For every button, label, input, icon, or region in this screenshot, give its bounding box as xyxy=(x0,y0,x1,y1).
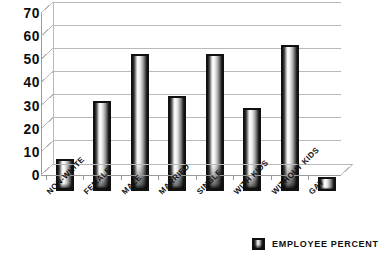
y-tick-label: 0 xyxy=(5,170,40,180)
legend-swatch-icon xyxy=(252,238,265,250)
legend-label: EMPLOYEE PERCENT xyxy=(272,239,379,249)
y-tick-label: 10 xyxy=(5,147,40,157)
y-tick-label: 60 xyxy=(5,31,40,41)
y-tick-label: 40 xyxy=(5,77,40,87)
bar xyxy=(131,54,149,191)
bar-chart: 706050403020100 NON-WHITEFEMALEMALEMARRI… xyxy=(0,0,387,266)
y-axis: 706050403020100 xyxy=(0,0,40,190)
grid-connector xyxy=(41,2,53,13)
y-tick-label: 30 xyxy=(5,101,40,111)
legend: EMPLOYEE PERCENT xyxy=(252,238,379,250)
y-tick-label: 50 xyxy=(5,54,40,64)
y-tick-label: 20 xyxy=(5,124,40,134)
y-tick-label: 70 xyxy=(5,8,40,18)
